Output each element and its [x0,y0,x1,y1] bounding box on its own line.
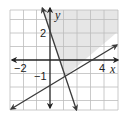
y-axis-label: y [54,8,61,22]
x-tick-label-4: 4 [99,62,105,74]
graph: y x −2 4 2 −1 [0,0,122,114]
x-tick-label-neg2: −2 [14,62,27,74]
y-tick-label-2: 2 [40,27,46,39]
x-axis-label: x [109,62,116,76]
y-tick-label-neg1: −1 [34,70,47,82]
